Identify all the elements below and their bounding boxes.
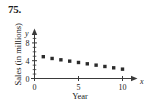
x-axis-letter: x <box>139 77 144 86</box>
data-point <box>121 67 124 70</box>
y-axis-letter: y <box>24 29 29 38</box>
x-tick-label: 10 <box>119 83 127 92</box>
data-point <box>103 65 106 68</box>
data-point <box>59 58 62 61</box>
figure-container: 75. Sales (in millions) Year 048 0510 y … <box>0 0 151 109</box>
y-axis <box>32 29 37 80</box>
y-tick-label: 4 <box>26 57 30 66</box>
y-tick-group: 048 <box>26 34 38 84</box>
data-point <box>50 57 53 60</box>
data-point <box>86 62 89 65</box>
data-point-group <box>42 55 125 71</box>
scatter-plot: 048 0510 y x <box>0 0 151 109</box>
x-axis-arrowhead <box>131 76 138 81</box>
x-tick-label: 5 <box>77 83 81 92</box>
y-tick-label: 8 <box>26 39 30 48</box>
data-point <box>94 63 97 66</box>
x-axis <box>31 76 138 81</box>
data-point <box>68 59 71 62</box>
y-tick-label: 0 <box>26 75 30 84</box>
data-point <box>42 55 45 58</box>
data-point <box>112 66 115 69</box>
data-point <box>77 61 80 64</box>
x-tick-label: 0 <box>33 83 37 92</box>
